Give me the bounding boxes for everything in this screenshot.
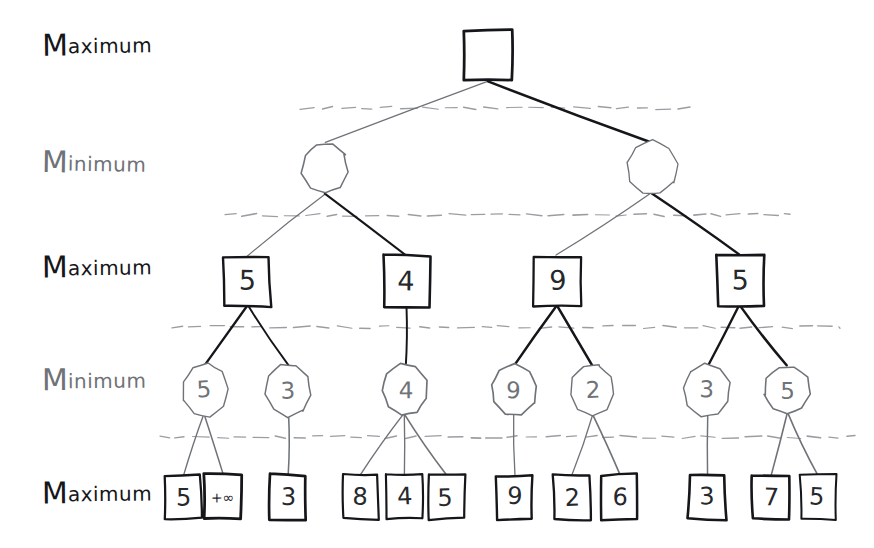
tree-node-square[interactable]: 5 (223, 257, 271, 307)
tree-edge (406, 306, 407, 366)
node-value: 5 (239, 265, 257, 296)
node-value: 4 (399, 377, 414, 403)
tree-edge (204, 306, 247, 366)
tree-edge (488, 81, 651, 142)
tree-edge (288, 413, 289, 475)
tree-node-circle[interactable]: 5 (764, 367, 810, 413)
node-value: 8 (352, 482, 368, 510)
node-value: 3 (699, 482, 715, 510)
node-value: 7 (763, 483, 779, 511)
tree-node-square[interactable]: 9 (496, 475, 533, 520)
level-separator-line (172, 325, 840, 328)
level-role-label-initial: M (42, 362, 68, 397)
tree-node-square[interactable]: 5 (165, 475, 202, 520)
level-separator-line (160, 435, 855, 438)
tree-edge (557, 306, 592, 365)
tree-node-circle[interactable]: 4 (382, 363, 427, 415)
level-role-label-initial: M (42, 249, 68, 284)
level-separator-line (225, 213, 790, 216)
tree-node-circle[interactable]: 9 (492, 364, 537, 415)
level-role-label-text: aximum (68, 481, 153, 506)
node-value: 5 (780, 378, 795, 404)
node-value: 2 (564, 484, 580, 513)
node-value: 9 (506, 377, 522, 404)
tree-edge (405, 414, 447, 475)
tree-edge (184, 413, 205, 475)
node-value: 5 (808, 482, 825, 511)
level-role-label-text: inimum (68, 152, 147, 177)
tree-edge (708, 305, 739, 366)
tree-node-circle[interactable]: 2 (571, 365, 614, 416)
tree-node-square[interactable] (464, 30, 513, 81)
tree-node-square[interactable]: 7 (752, 476, 790, 520)
tree-edge (771, 414, 787, 476)
tree-node-circle[interactable] (301, 144, 348, 193)
node-value: 9 (507, 482, 523, 510)
level-role-label-initial: M (42, 144, 68, 179)
node-value: 5 (196, 376, 212, 403)
diagram-canvas: 549553492355+∞3845926375 MaximumMinimumM… (0, 0, 874, 548)
node-value: +∞ (211, 489, 235, 505)
tree-edge (514, 413, 515, 474)
tree-node-square[interactable]: 2 (553, 474, 591, 520)
tree-nodes: 549553492355+∞3845926375 (165, 30, 837, 521)
tree-node-square[interactable]: 5 (428, 474, 465, 520)
tree-node-square[interactable]: 4 (386, 474, 423, 519)
tree-node-square[interactable]: 5 (800, 474, 837, 520)
tree-edge (740, 306, 786, 365)
tree-node-square[interactable]: 9 (533, 257, 581, 307)
tree-node-square[interactable]: 3 (269, 474, 306, 521)
level-role-label-initial: M (42, 475, 68, 510)
level-role-label: Minimum (42, 365, 147, 396)
tree-edge (204, 414, 223, 475)
tree-edge (593, 414, 620, 474)
node-circle-outline (301, 144, 348, 193)
tree-node-square[interactable]: +∞ (204, 474, 242, 519)
node-circle-outline (627, 140, 678, 194)
tree-edge (513, 306, 556, 367)
tree-node-circle[interactable]: 5 (183, 363, 228, 417)
level-role-label: Maximum (42, 477, 152, 508)
tree-edge (556, 193, 651, 255)
level-role-label: Minimum (42, 147, 147, 179)
tree-node-circle[interactable]: 3 (684, 363, 731, 417)
level-separator-line (300, 106, 690, 109)
level-role-label-initial: M (42, 27, 68, 62)
tree-edge (247, 194, 326, 257)
node-value: 5 (732, 264, 750, 295)
level-role-label-text: aximum (68, 33, 153, 58)
tree-edge (325, 194, 407, 257)
tree-node-square[interactable]: 8 (343, 474, 379, 520)
tree-edge (652, 194, 740, 256)
tree-edge (325, 81, 488, 142)
node-square-outline (464, 30, 513, 81)
node-value: 5 (176, 484, 191, 512)
node-value: 3 (280, 377, 295, 403)
tree-node-circle[interactable]: 3 (265, 365, 311, 418)
level-role-label: Maximum (42, 29, 153, 60)
level-role-label: Maximum (42, 251, 153, 282)
tree-edge (572, 415, 593, 475)
tree-node-square[interactable]: 6 (601, 474, 637, 521)
tree-node-square[interactable]: 3 (688, 475, 727, 520)
tree-node-square[interactable]: 4 (384, 255, 431, 308)
tree-edge (248, 305, 288, 365)
tree-node-circle[interactable] (627, 140, 678, 194)
level-role-label-text: aximum (68, 255, 153, 280)
tree-edge (360, 413, 404, 475)
node-value: 3 (699, 376, 714, 402)
node-value: 6 (612, 483, 628, 512)
node-value: 3 (281, 483, 297, 511)
tree-node-square[interactable]: 5 (716, 255, 764, 307)
node-value: 9 (549, 264, 567, 296)
node-value: 4 (396, 482, 413, 511)
tree-edge (788, 413, 817, 474)
level-role-label-text: inimum (68, 369, 147, 394)
node-value: 2 (585, 377, 600, 403)
node-value: 4 (397, 265, 415, 296)
node-value: 5 (437, 484, 453, 512)
